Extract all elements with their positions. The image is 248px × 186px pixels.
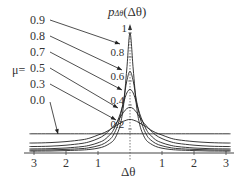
x-tick-label: 1 — [159, 157, 165, 169]
legend-label-mu-0.9: 0.9 — [30, 14, 45, 26]
legend-arrow-line — [50, 84, 116, 120]
x-axis-title: Δθ — [121, 166, 136, 178]
y-tick-label: 0.4 — [111, 95, 125, 106]
y-tick-label: 0.6 — [111, 71, 125, 82]
legend-label-mu-0.7: 0.7 — [30, 46, 45, 58]
x-tick-label: 3 — [31, 157, 37, 169]
title-sub: Δθ — [115, 9, 124, 18]
legend-arrow-line — [50, 20, 120, 44]
x-tick-label: 3 — [223, 157, 229, 169]
y-axis-title: pΔθ(Δθ) — [108, 4, 146, 20]
legend-label-mu-0.0: 0.0 — [30, 94, 45, 106]
y-axis-arrow-icon — [128, 24, 132, 30]
legend-arrow-line — [50, 68, 118, 108]
y-tick-label: 0.2 — [111, 119, 125, 130]
x-tick-label: 2 — [63, 157, 69, 169]
y-tick-label: 0.8 — [111, 47, 125, 58]
title-arg: (Δθ) — [123, 4, 146, 19]
y-tick-label: 1 — [122, 23, 128, 34]
x-tick-label: 1 — [95, 157, 101, 169]
legend-label-mu-0.5: 0.5 — [30, 62, 45, 74]
arrowhead-icon — [115, 40, 120, 44]
legend-label-mu-0.3: 0.3 — [30, 78, 45, 90]
x-tick-label: 2 — [191, 157, 197, 169]
arrowhead-icon — [117, 86, 122, 90]
legend-label-mu-0.8: 0.8 — [30, 30, 45, 42]
mu-prefix-label: μ= — [12, 64, 25, 76]
